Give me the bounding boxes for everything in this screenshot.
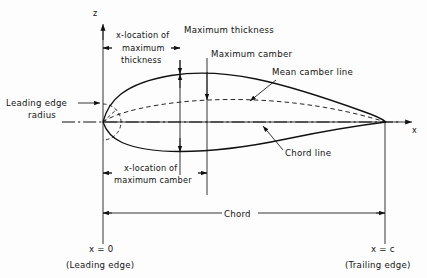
x-axis-label: x (412, 126, 417, 135)
chord-line-leader (263, 126, 283, 150)
leading-edge-radius-label-line2: radius (28, 110, 56, 120)
z-axis-label: z (93, 9, 97, 18)
airfoil-nomenclature-figure: Leading edge radius x-location of maximu… (0, 0, 427, 278)
diagram-canvas: Leading edge radius x-location of maximu… (0, 0, 427, 278)
mean-camber-line-curve (103, 100, 386, 123)
maximum-thickness-label: Maximum thickness (184, 25, 274, 35)
airfoil-upper-surface (103, 73, 386, 122)
x-zero-label: x = 0 (89, 244, 113, 254)
maximum-camber-label: Maximum camber (211, 49, 292, 59)
x-chord-label: x = c (371, 244, 395, 254)
x-location-max-thickness-label-line2: maximum (122, 43, 165, 53)
leading-edge-paren-label: (Leading edge) (66, 260, 134, 270)
x-location-max-camber-label-line1: x-location of (124, 163, 178, 173)
x-location-max-thickness-label-line1: x-location of (116, 30, 170, 40)
leading-edge-radius-label-line1: Leading edge (6, 98, 67, 108)
trailing-edge-paren-label: (Trailing edge) (345, 260, 411, 270)
x-location-max-thickness-label-line3: thickness (121, 55, 161, 65)
mean-camber-line-label: Mean camber line (272, 67, 353, 77)
x-location-max-camber-label-line2: maximum camber (114, 175, 192, 185)
chord-label: Chord (224, 209, 251, 219)
chord-line-label: Chord line (285, 148, 331, 158)
airfoil-lower-surface (103, 122, 386, 152)
mean-camber-line-leader (250, 80, 276, 101)
